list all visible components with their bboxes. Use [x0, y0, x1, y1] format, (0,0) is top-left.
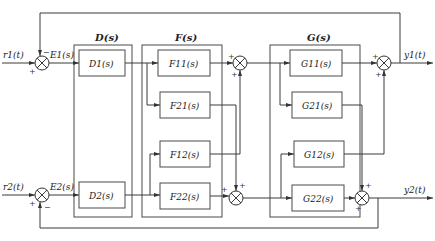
sum-junction-f-bottom	[229, 191, 243, 205]
label-e2: E2(s)	[49, 182, 74, 192]
arrow-ysum1-in	[371, 61, 377, 65]
block-d1-label: D1(s)	[88, 59, 114, 69]
arrow-feedback-2	[38, 202, 42, 208]
wire-g21-out	[342, 105, 362, 191]
block-g21-label: G21(s)	[302, 101, 333, 111]
sign-fsum-bottom-top: +	[239, 181, 246, 190]
arrow-g21-to-sum	[360, 185, 364, 191]
block-f11-label: F11(s)	[168, 59, 199, 69]
sum-junction-y1	[377, 56, 391, 70]
block-d2-label: D2(s)	[88, 191, 114, 201]
block-diagram: D(s) F(s) G(s) D1(s) D2(s) F11(s) F21(s)…	[0, 0, 435, 241]
block-f12-label: F12(s)	[169, 150, 200, 160]
sign-fb1-minus: −	[43, 48, 50, 57]
arrow-r2	[29, 193, 35, 197]
arrow-ysum2-in	[349, 196, 355, 200]
sum-junction-y2	[355, 191, 369, 205]
wire-f21-out	[210, 105, 236, 191]
arrow-fsum-bottom-in	[223, 194, 229, 198]
label-y2: y2(t)	[403, 185, 426, 195]
arrow-y2	[427, 196, 433, 200]
arrow-f21-in	[154, 103, 160, 107]
arrow-f21-to-sum	[234, 185, 238, 191]
sum-junction-e2	[35, 188, 49, 202]
sign-r2-plus: +	[29, 199, 36, 208]
label-e1: E1(s)	[49, 50, 74, 60]
arrow-feedback-1	[38, 50, 42, 56]
arrow-g11-in	[284, 61, 290, 65]
arrow-g12-in	[288, 152, 294, 156]
sign-fb2-minus: −	[44, 203, 51, 212]
arrow-fsum-top-in	[227, 61, 233, 65]
sign-fsum-bottom-left: +	[221, 185, 228, 194]
sign-fsum-top-left: +	[228, 52, 235, 61]
arrow-e1	[73, 61, 79, 65]
arrow-f11-in	[152, 61, 158, 65]
arrow-f22-in	[154, 193, 160, 197]
arrow-y1	[427, 61, 433, 65]
label-y1: y1(t)	[403, 50, 426, 60]
sign-fsum-top-bottom: +	[231, 70, 238, 79]
wire-g12-out	[344, 70, 384, 154]
sign-r1-plus: +	[29, 67, 36, 76]
sum-junction-f-top	[233, 56, 247, 70]
group-g-label: G(s)	[307, 32, 331, 43]
sign-ysum2-top: +	[365, 181, 372, 190]
block-f22-label: F22(s)	[169, 192, 200, 202]
sum-junction-e1	[35, 56, 49, 70]
arrow-g12-to-sum	[382, 70, 386, 76]
label-r2: r2(t)	[3, 182, 24, 192]
arrow-f12-in	[154, 152, 160, 156]
arrow-e2	[73, 193, 79, 197]
arrow-f12-to-sum	[238, 70, 242, 76]
arrow-r1	[29, 61, 35, 65]
sign-ysum1-bottom: +	[375, 70, 382, 79]
group-d-label: D(s)	[94, 32, 119, 43]
label-r1: r1(t)	[3, 50, 24, 60]
arrow-g21-in	[286, 103, 292, 107]
block-g11-label: G11(s)	[301, 59, 332, 69]
arrow-g22-in	[286, 196, 292, 200]
wire-d2-to-f12	[150, 154, 160, 195]
sign-ysum2-left: +	[355, 204, 362, 213]
block-f21-label: F21(s)	[169, 101, 200, 111]
block-g12-label: G12(s)	[304, 150, 335, 160]
sign-ysum1-left: +	[372, 52, 379, 61]
group-f-label: F(s)	[174, 32, 197, 43]
block-g22-label: G22(s)	[303, 194, 334, 204]
